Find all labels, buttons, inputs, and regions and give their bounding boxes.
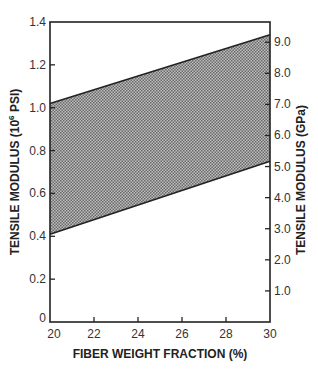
right-y-axis-title: TENSILE MODULUS (GPa) xyxy=(294,105,308,255)
y-tick-label: 0.4 xyxy=(29,229,46,243)
x-axis-title: FIBER WEIGHT FRACTION (%) xyxy=(73,347,248,361)
y2-tick-label: 4.0 xyxy=(274,191,291,205)
left-y-axis-title-post: PSI) xyxy=(8,89,22,116)
y2-tick-label: 1.0 xyxy=(274,284,291,298)
x-tick-label: 28 xyxy=(219,327,233,341)
y-tick-label: 1.0 xyxy=(29,101,46,115)
y-tick-label: 0.2 xyxy=(29,272,46,286)
y-tick-label: 0.8 xyxy=(29,144,46,158)
y2-tick-label: 9.0 xyxy=(274,35,291,49)
y2-tick-label: 2.0 xyxy=(274,253,291,267)
band-fill xyxy=(50,35,270,234)
left-y-axis-title: TENSILE MODULUS (106 PSI) xyxy=(7,89,22,255)
x-tick-label: 30 xyxy=(263,327,277,341)
y-tick-label: 1.2 xyxy=(29,58,46,72)
y-tick-label: 0.6 xyxy=(29,186,46,200)
left-y-axis-title-pre: TENSILE MODULUS (10 xyxy=(8,120,22,256)
x-tick-label: 24 xyxy=(131,327,145,341)
x-tick-label: 26 xyxy=(175,327,189,341)
modulus-range-band xyxy=(50,35,270,234)
y-tick-label: 1.4 xyxy=(29,15,46,29)
y2-tick-label: 7.0 xyxy=(274,97,291,111)
x-axis-ticks: 202224262830 xyxy=(47,317,277,341)
y2-tick-label: 5.0 xyxy=(274,160,291,174)
x-tick-label: 20 xyxy=(47,327,61,341)
y2-tick-label: 8.0 xyxy=(274,66,291,80)
y2-tick-label: 6.0 xyxy=(274,128,291,142)
y2-tick-label: 3.0 xyxy=(274,222,291,236)
tensile-modulus-chart: 202224262830 00.20.40.60.81.01.21.4 1.02… xyxy=(0,0,318,376)
x-tick-label: 22 xyxy=(87,327,101,341)
y-tick-label: 0 xyxy=(39,311,46,325)
